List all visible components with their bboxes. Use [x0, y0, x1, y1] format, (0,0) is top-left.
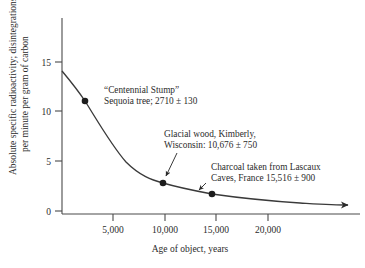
annotation-centennial-stump-line1: “Centennial Stump”: [104, 85, 179, 95]
y-tick-label-15: 15: [42, 58, 52, 68]
radiocarbon-decay-chart: 15 10 5 0 Absolute specific radioactivit…: [0, 0, 365, 268]
annotation-lascaux-line2: Caves, France 15,516 ± 900: [211, 173, 316, 183]
data-point-lascaux-charcoal: [209, 191, 216, 198]
x-tick-label-10000: 10,000: [152, 225, 178, 235]
x-tick-label-5000: 5,000: [102, 225, 124, 235]
chart-canvas: 15 10 5 0 Absolute specific radioactivit…: [0, 0, 365, 268]
data-point-centennial-stump: [82, 98, 89, 105]
x-tick-label-15000: 15,000: [203, 225, 229, 235]
x-axis-title: Age of object, years: [152, 244, 229, 254]
annotation-glacial-wood-line1: Glacial wood, Kimberly,: [164, 129, 256, 139]
y-axis-title-line2: per minute per gram of carbon: [20, 36, 30, 152]
annotation-glacial-wood-leader: [166, 153, 177, 176]
annotation-lascaux-line1: Charcoal taken from Lascaux: [211, 162, 321, 172]
x-tick-label-20000: 20,000: [255, 225, 281, 235]
y-tick-label-0: 0: [46, 207, 51, 217]
annotation-glacial-wood-line2: Wisconsin: 10,676 ± 750: [164, 140, 257, 150]
y-axis-title-line1: Absolute specific radioactivity; disinte…: [8, 0, 18, 175]
y-tick-label-5: 5: [46, 157, 51, 167]
annotation-lascaux-leader: [199, 183, 206, 190]
annotation-centennial-stump-line2: Sequoia tree; 2710 ± 130: [104, 96, 198, 106]
y-tick-label-10: 10: [42, 107, 52, 117]
data-point-glacial-wood: [160, 180, 167, 187]
